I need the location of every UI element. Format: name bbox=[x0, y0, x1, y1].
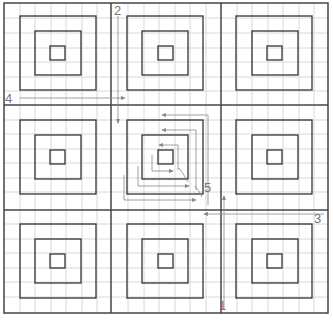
grid-lines bbox=[4, 3, 328, 313]
label-4: 4 bbox=[5, 92, 12, 105]
panel-borders bbox=[4, 3, 328, 313]
label-5: 5 bbox=[204, 181, 211, 194]
label-1: 1 bbox=[219, 299, 226, 312]
label-3: 3 bbox=[314, 212, 321, 225]
label-2: 2 bbox=[114, 4, 121, 17]
diagram-canvas bbox=[0, 0, 333, 321]
